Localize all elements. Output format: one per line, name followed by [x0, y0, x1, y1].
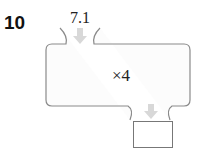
- answer-box[interactable]: [133, 121, 173, 148]
- input-arrow-icon: [73, 28, 87, 44]
- output-arrow-icon: [144, 104, 158, 119]
- operation-label: ×4: [112, 66, 130, 86]
